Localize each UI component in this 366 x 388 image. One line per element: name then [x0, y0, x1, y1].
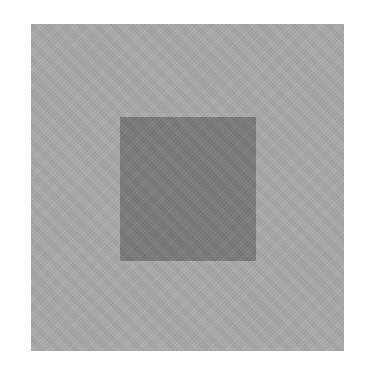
inner-dark-gray-square: [120, 117, 256, 261]
